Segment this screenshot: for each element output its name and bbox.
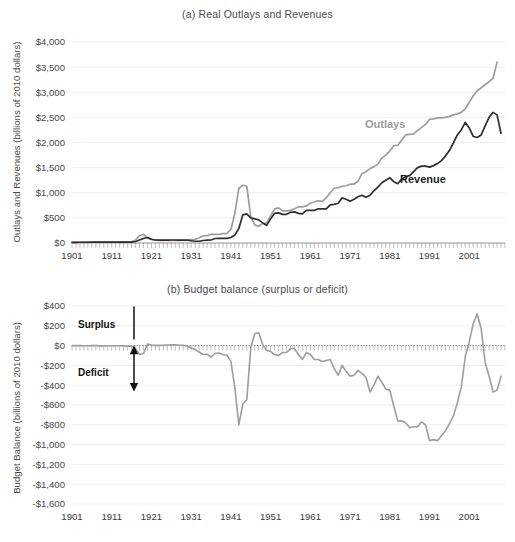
y-axis-tick-label: $4,000 [36, 36, 65, 47]
y-axis-tick-label: -$1,000 [32, 439, 65, 450]
x-axis-tick-label: 1991 [419, 511, 440, 522]
panel-a-title: (a) Real Outlays and Revenues [0, 8, 515, 20]
panel-a-y-axis-title: Outlays and Revenues (billions of 2010 d… [11, 41, 22, 242]
series-label-outlays: Outlays [365, 118, 405, 130]
panel-a-chart-svg: $0$500$1,000$1,500$2,000$2,500$3,000$3,5… [0, 0, 515, 278]
panel-b-y-axis-title: Budget Balance (billions of 2010 dollars… [11, 322, 22, 494]
y-axis-tick-label: $3,500 [36, 62, 65, 73]
y-axis-tick-label: $2,500 [36, 112, 65, 123]
x-axis-tick-label: 1971 [339, 250, 360, 261]
x-axis-tick-label: 1981 [379, 511, 400, 522]
y-axis-tick-label: -$800 [40, 419, 65, 430]
annotation-deficit: Deficit [78, 367, 109, 378]
x-axis-tick-label: 1941 [220, 250, 241, 261]
x-axis-tick-label: 1921 [141, 511, 162, 522]
x-axis-tick-label: 1911 [101, 250, 122, 261]
series-line-outlays [72, 62, 497, 242]
y-axis-tick-label: -$400 [40, 380, 65, 391]
x-axis-tick-label: 1961 [300, 511, 321, 522]
y-axis-tick-label: $3,000 [36, 87, 65, 98]
panel-b-chart-svg: $400$200$0-$200-$400-$600-$800-$1,000-$1… [0, 278, 515, 542]
y-axis-tick-label: $1,000 [36, 187, 65, 198]
x-axis-tick-label: 2001 [459, 250, 480, 261]
y-axis-tick-label: -$600 [40, 399, 65, 410]
deficit-arrow-head-icon [130, 383, 138, 392]
x-axis-tick-label: 1931 [181, 250, 202, 261]
y-axis-tick-label: -$1,200 [32, 459, 65, 470]
y-axis-tick-label: $400 [44, 300, 65, 311]
panel-b-title: (b) Budget balance (surplus or deficit) [0, 283, 515, 295]
x-axis-tick-label: 1951 [260, 511, 281, 522]
series-label-revenue: Revenue [400, 173, 446, 185]
x-axis-tick-label: 1981 [379, 250, 400, 261]
y-axis-tick-label: -$200 [40, 360, 65, 371]
y-axis-tick-label: $2,000 [36, 137, 65, 148]
y-axis-tick-label: $500 [44, 212, 65, 223]
annotation-surplus: Surplus [78, 319, 116, 330]
y-axis-tick-label: -$1,600 [32, 498, 65, 509]
y-axis-tick-label: $1,500 [36, 162, 65, 173]
panel-budget-balance: (b) Budget balance (surplus or deficit) … [0, 278, 515, 542]
x-axis-tick-label: 1901 [61, 511, 82, 522]
panel-real-outlays-and-revenues: (a) Real Outlays and Revenues $0$500$1,0… [0, 0, 515, 278]
x-axis-tick-label: 1941 [220, 511, 241, 522]
y-axis-tick-label: $0 [54, 340, 65, 351]
series-line-budget-balance [72, 314, 501, 441]
x-axis-tick-label: 1951 [260, 250, 281, 261]
y-axis-tick-label: $0 [54, 237, 65, 248]
x-axis-tick-label: 2001 [459, 511, 480, 522]
figure-page: (a) Real Outlays and Revenues $0$500$1,0… [0, 0, 515, 542]
x-axis-tick-label: 1931 [181, 511, 202, 522]
x-axis-tick-label: 1901 [61, 250, 82, 261]
x-axis-tick-label: 1971 [339, 511, 360, 522]
y-axis-tick-label: $200 [44, 320, 65, 331]
y-axis-tick-label: -$1,400 [32, 479, 65, 490]
x-axis-tick-label: 1961 [300, 250, 321, 261]
x-axis-tick-label: 1921 [141, 250, 162, 261]
x-axis-tick-label: 1991 [419, 250, 440, 261]
x-axis-tick-label: 1911 [101, 511, 122, 522]
